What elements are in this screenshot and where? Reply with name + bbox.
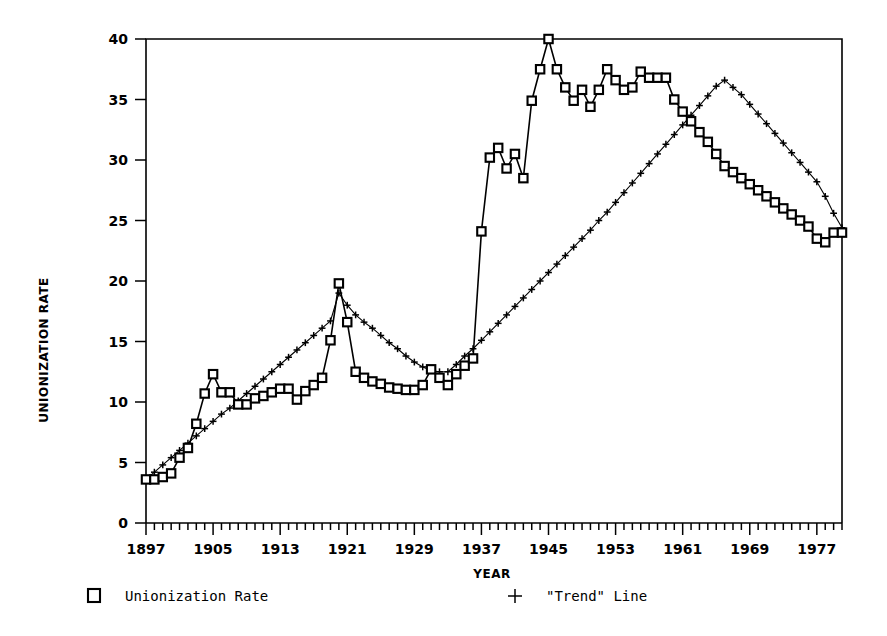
data-point-marker xyxy=(536,65,544,73)
data-point-marker xyxy=(427,365,435,373)
data-point-marker xyxy=(578,86,586,94)
data-point-marker xyxy=(494,144,502,152)
data-point-marker xyxy=(670,95,678,103)
data-point-marker xyxy=(771,198,779,206)
y-axis-title: UNIONIZATION RATE xyxy=(37,277,51,423)
data-point-marker xyxy=(293,395,301,403)
data-point-marker xyxy=(226,388,234,396)
data-point-marker xyxy=(318,374,326,382)
data-point-marker xyxy=(351,368,359,376)
y-tick-label: 15 xyxy=(109,334,128,350)
data-point-marker xyxy=(402,386,410,394)
data-point-marker xyxy=(486,153,494,161)
legend-item-unionization-rate: Unionization Rate xyxy=(88,588,268,604)
data-point-marker xyxy=(201,389,209,397)
data-point-marker xyxy=(737,174,745,182)
data-point-marker xyxy=(678,107,686,115)
data-point-marker xyxy=(410,386,418,394)
y-tick-label: 10 xyxy=(109,394,129,410)
data-point-marker xyxy=(192,420,200,428)
data-point-marker xyxy=(687,117,695,125)
data-point-marker xyxy=(813,234,821,242)
data-point-marker xyxy=(150,475,158,483)
x-tick-label: 1953 xyxy=(596,541,635,557)
y-tick-label: 25 xyxy=(109,213,128,229)
data-point-marker xyxy=(242,400,250,408)
data-point-marker xyxy=(796,216,804,224)
data-point-marker xyxy=(553,65,561,73)
data-point-marker xyxy=(720,162,728,170)
data-point-marker xyxy=(360,374,368,382)
data-point-marker xyxy=(184,444,192,452)
data-point-marker xyxy=(435,374,443,382)
data-point-marker xyxy=(284,384,292,392)
data-point-marker xyxy=(310,381,318,389)
data-point-marker xyxy=(779,204,787,212)
data-point-marker xyxy=(645,74,653,82)
trend-line-markers xyxy=(143,77,846,483)
data-point-marker xyxy=(368,377,376,385)
data-point-marker xyxy=(511,150,519,158)
data-point-marker xyxy=(385,383,393,391)
data-point-marker xyxy=(377,380,385,388)
data-point-marker xyxy=(821,238,829,246)
data-point-marker xyxy=(829,228,837,236)
data-point-marker xyxy=(276,384,284,392)
y-axis: 0510152025303540 xyxy=(109,31,146,531)
data-point-marker xyxy=(167,469,175,477)
legend-label-unionization-rate: Unionization Rate xyxy=(125,588,268,604)
chart-legend: Unionization Rate "Trend" Line xyxy=(88,588,647,604)
legend-item-trend-line: "Trend" Line xyxy=(508,588,647,604)
data-point-marker xyxy=(787,210,795,218)
x-tick-label: 1937 xyxy=(462,541,501,557)
x-axis-title: YEAR xyxy=(472,567,510,581)
data-point-marker xyxy=(754,186,762,194)
data-point-marker xyxy=(142,475,150,483)
data-point-marker xyxy=(704,138,712,146)
trend-point-marker xyxy=(419,364,426,371)
data-point-marker xyxy=(804,222,812,230)
data-point-marker xyxy=(528,97,536,105)
data-point-marker xyxy=(159,473,167,481)
data-point-marker xyxy=(595,86,603,94)
data-point-marker xyxy=(544,35,552,43)
chart-canvas: 0510152025303540 18971905191319211929193… xyxy=(0,0,887,636)
data-point-marker xyxy=(729,168,737,176)
data-point-marker xyxy=(175,453,183,461)
unionization-rate-markers xyxy=(142,35,846,484)
data-point-marker xyxy=(335,279,343,287)
data-point-marker xyxy=(209,370,217,378)
data-point-marker xyxy=(502,164,510,172)
legend-plus-marker-icon xyxy=(508,589,522,603)
data-point-marker xyxy=(611,76,619,84)
data-point-marker xyxy=(653,74,661,82)
trend-point-marker xyxy=(822,193,829,200)
x-tick-label: 1945 xyxy=(529,541,568,557)
unionization-rate-chart: 0510152025303540 18971905191319211929193… xyxy=(0,0,887,636)
data-point-marker xyxy=(268,388,276,396)
data-point-marker xyxy=(662,74,670,82)
data-point-marker xyxy=(603,65,611,73)
data-point-marker xyxy=(452,370,460,378)
data-point-marker xyxy=(637,67,645,75)
legend-label-trend-line: "Trend" Line xyxy=(546,588,647,604)
data-point-marker xyxy=(620,86,628,94)
trend-point-marker xyxy=(830,210,837,217)
x-tick-label: 1897 xyxy=(127,541,166,557)
x-tick-label: 1961 xyxy=(663,541,702,557)
y-tick-label: 20 xyxy=(109,273,129,289)
x-tick-label: 1969 xyxy=(730,541,769,557)
y-tick-label: 5 xyxy=(118,455,128,471)
data-point-marker xyxy=(561,83,569,91)
data-point-marker xyxy=(519,174,527,182)
data-point-marker xyxy=(326,336,334,344)
y-tick-label: 35 xyxy=(109,92,128,108)
data-point-marker xyxy=(460,362,468,370)
data-point-marker xyxy=(234,400,242,408)
data-point-marker xyxy=(301,387,309,395)
legend-square-marker-icon xyxy=(88,589,100,602)
x-tick-label: 1905 xyxy=(194,541,233,557)
x-tick-label: 1921 xyxy=(328,541,367,557)
data-point-marker xyxy=(469,354,477,362)
data-point-marker xyxy=(444,381,452,389)
